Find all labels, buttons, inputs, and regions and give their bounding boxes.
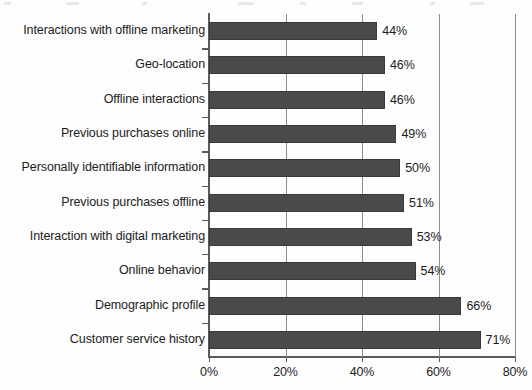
bar bbox=[209, 125, 396, 143]
x-tick-mark bbox=[515, 357, 516, 362]
bar-value-label: 51% bbox=[409, 196, 434, 210]
x-tick-label: 0% bbox=[200, 365, 218, 379]
bar bbox=[209, 22, 377, 40]
bar-row: 54% bbox=[209, 262, 515, 280]
y-tick-mark bbox=[202, 323, 208, 324]
x-tick-label: 40% bbox=[350, 365, 375, 379]
x-tick-mark bbox=[286, 357, 287, 362]
y-tick-mark bbox=[202, 117, 208, 118]
bar bbox=[209, 228, 412, 246]
y-tick-mark bbox=[202, 83, 208, 84]
bar-value-label: 71% bbox=[486, 333, 511, 347]
bar-value-label: 49% bbox=[401, 127, 426, 141]
x-tick-mark bbox=[439, 357, 440, 362]
category-label: Interactions with offline marketing bbox=[0, 23, 205, 37]
category-label: Geo-location bbox=[0, 57, 205, 71]
bar-row: 50% bbox=[209, 159, 515, 177]
bar-value-label: 44% bbox=[382, 24, 407, 38]
bar-row: 46% bbox=[209, 56, 515, 74]
bar-row: 44% bbox=[209, 22, 515, 40]
category-label: Personally identifiable information bbox=[0, 160, 205, 174]
bar bbox=[209, 194, 404, 212]
x-tick-mark bbox=[209, 357, 210, 362]
category-label: Online behavior bbox=[0, 263, 205, 277]
bar-value-label: 46% bbox=[390, 58, 415, 72]
x-tick-label: 60% bbox=[426, 365, 451, 379]
bar-row: 49% bbox=[209, 125, 515, 143]
bar bbox=[209, 56, 385, 74]
y-tick-mark bbox=[202, 48, 208, 49]
bar bbox=[209, 331, 481, 349]
category-label: Offline interactions bbox=[0, 92, 205, 106]
x-tick-label: 80% bbox=[503, 365, 528, 379]
y-tick-mark bbox=[202, 186, 208, 187]
category-label: Previous purchases offline bbox=[0, 195, 205, 209]
y-tick-mark bbox=[202, 254, 208, 255]
bar-row: 46% bbox=[209, 91, 515, 109]
category-label: Customer service history bbox=[0, 332, 205, 346]
bar-row: 71% bbox=[209, 331, 515, 349]
plot-area: 44%46%46%49%50%51%53%54%66%71% bbox=[209, 14, 515, 357]
bar-value-label: 50% bbox=[405, 161, 430, 175]
x-tick-mark bbox=[362, 357, 363, 362]
x-tick-label: 20% bbox=[273, 365, 298, 379]
category-label: Interaction with digital marketing bbox=[0, 229, 205, 243]
bar bbox=[209, 262, 416, 280]
y-tick-mark bbox=[202, 151, 208, 152]
bar-row: 66% bbox=[209, 297, 515, 315]
bar-value-label: 46% bbox=[390, 93, 415, 107]
bar-value-label: 53% bbox=[417, 230, 442, 244]
y-tick-mark bbox=[202, 220, 208, 221]
bar bbox=[209, 91, 385, 109]
category-label: Demographic profile bbox=[0, 298, 205, 312]
y-tick-mark bbox=[202, 288, 208, 289]
bar-value-label: 54% bbox=[421, 264, 446, 278]
gridline bbox=[515, 14, 516, 357]
scan-artifact bbox=[0, 2, 532, 9]
bar bbox=[209, 159, 400, 177]
bar-row: 51% bbox=[209, 194, 515, 212]
bar bbox=[209, 297, 461, 315]
bar-value-label: 66% bbox=[466, 299, 491, 313]
category-label: Previous purchases online bbox=[0, 126, 205, 140]
bar-row: 53% bbox=[209, 228, 515, 246]
horizontal-bar-chart: 44%46%46%49%50%51%53%54%66%71% 0%20%40%6… bbox=[0, 0, 532, 390]
